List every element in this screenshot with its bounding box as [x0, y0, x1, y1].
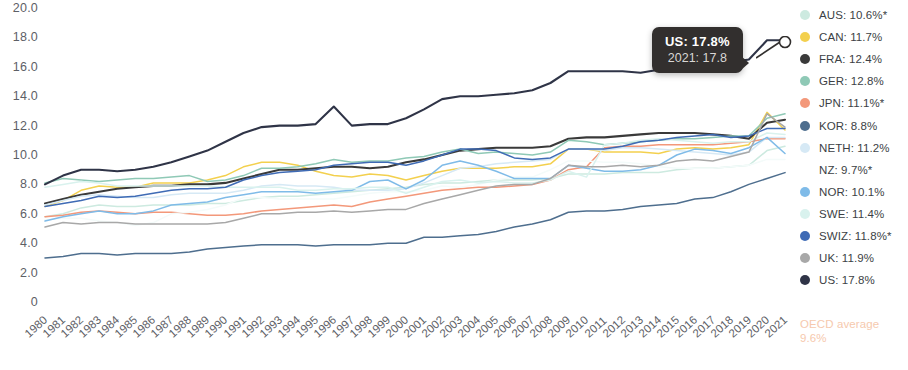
legend-item-fra[interactable]: FRA: 12.4% — [800, 48, 908, 70]
legend-swatch-jpn-icon — [800, 98, 810, 108]
legend-label-nor: NOR: 10.1% — [819, 186, 885, 198]
y-axis-tick: 2.0 — [20, 266, 38, 280]
legend-label-fra: FRA: 12.4% — [819, 53, 882, 65]
legend-swatch-us-icon — [800, 275, 810, 285]
legend-swatch-ger-icon — [800, 76, 810, 86]
legend-swatch-kor-icon — [800, 121, 810, 131]
legend-swatch-nz-icon — [800, 165, 810, 175]
legend-label-us: US: 17.8% — [819, 274, 875, 286]
legend-item-aus[interactable]: AUS: 10.6%* — [800, 4, 908, 26]
legend-label-kor: KOR: 8.8% — [819, 120, 877, 132]
legend-item-us[interactable]: US: 17.8% — [800, 269, 908, 291]
legend-swatch-uk-icon — [800, 253, 810, 263]
legend-swatch-swe-icon — [800, 209, 810, 219]
legend-item-nz[interactable]: NZ: 9.7%* — [800, 159, 908, 181]
legend-swatch-swiz-icon — [800, 231, 810, 241]
legend-label-swe: SWE: 11.4% — [819, 208, 884, 220]
tooltip-title: US: 17.8% — [665, 34, 730, 49]
tooltip-arrow-icon — [741, 56, 749, 70]
legend-label-ger: GER: 12.8% — [819, 75, 884, 87]
legend: AUS: 10.6%*CAN: 11.7%FRA: 12.4%GER: 12.8… — [800, 4, 908, 345]
series-line-ger[interactable] — [45, 114, 785, 183]
y-axis-tick: 6.0 — [20, 207, 38, 221]
y-axis-tick: 12.0 — [13, 119, 38, 133]
line-chart: 20.018.016.014.012.010.08.06.04.02.00 19… — [0, 0, 908, 370]
y-axis-tick: 10.0 — [13, 148, 38, 162]
y-axis-tick: 14.0 — [13, 89, 38, 103]
legend-label-neth: NETH: 11.2% — [819, 142, 890, 154]
cursor-pointer-icon — [756, 36, 796, 66]
legend-label-nz: NZ: 9.7%* — [819, 164, 872, 176]
legend-item-uk[interactable]: UK: 11.9% — [800, 247, 908, 269]
y-axis-tick: 16.0 — [13, 60, 38, 74]
y-axis-tick: 8.0 — [20, 177, 38, 191]
legend-label-jpn: JPN: 11.1%* — [819, 97, 884, 109]
y-axis-tick: 4.0 — [20, 236, 38, 250]
legend-label-aus: AUS: 10.6%* — [819, 9, 887, 21]
legend-swatch-neth-icon — [800, 143, 810, 153]
tooltip-subtitle: 2021: 17.8 — [665, 51, 730, 65]
legend-item-kor[interactable]: KOR: 8.8% — [800, 114, 908, 136]
legend-footnote: OECD average 9.6% — [800, 317, 908, 345]
legend-label-can: CAN: 11.7% — [819, 31, 882, 43]
legend-swatch-fra-icon — [800, 54, 810, 64]
legend-item-swe[interactable]: SWE: 11.4% — [800, 203, 908, 225]
y-axis-tick: 0 — [31, 295, 38, 309]
data-tooltip[interactable]: US: 17.8% 2021: 17.8 — [652, 27, 743, 73]
legend-item-ger[interactable]: GER: 12.8% — [800, 70, 908, 92]
legend-item-can[interactable]: CAN: 11.7% — [800, 26, 908, 48]
legend-item-jpn[interactable]: JPN: 11.1%* — [800, 92, 908, 114]
x-axis: 1980198119821983198419851986198719881989… — [45, 305, 785, 367]
y-axis-tick: 18.0 — [13, 30, 38, 44]
legend-label-uk: UK: 11.9% — [819, 252, 874, 264]
y-axis: 20.018.016.014.012.010.08.06.04.02.00 — [0, 0, 44, 310]
legend-swatch-aus-icon — [800, 10, 810, 20]
legend-swatch-can-icon — [800, 32, 810, 42]
legend-item-swiz[interactable]: SWIZ: 11.8%* — [800, 225, 908, 247]
legend-item-neth[interactable]: NETH: 11.2% — [800, 137, 908, 159]
legend-swatch-nor-icon — [800, 187, 810, 197]
legend-item-nor[interactable]: NOR: 10.1% — [800, 181, 908, 203]
y-axis-tick: 20.0 — [13, 1, 38, 15]
legend-label-swiz: SWIZ: 11.8%* — [819, 230, 892, 242]
